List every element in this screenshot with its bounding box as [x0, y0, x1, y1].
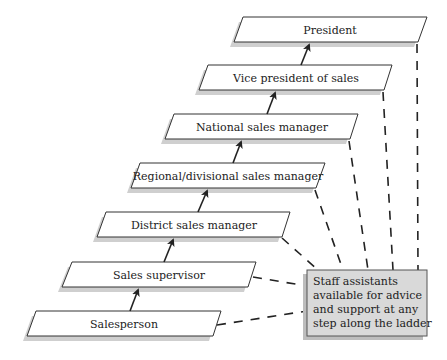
arrow-up-icon: [233, 142, 241, 163]
level-label: Salesperson: [90, 318, 158, 331]
connector-supervisor: [253, 277, 307, 286]
arrow-up-icon: [164, 240, 173, 262]
connector-national: [349, 141, 368, 270]
staff-text-line: Staff assistants: [313, 275, 398, 288]
level-box-vice-president: Vice president of sales: [195, 65, 392, 95]
level-box-district-sales-manager: District sales manager: [93, 212, 290, 242]
level-label: President: [303, 24, 357, 37]
arrow-up-icon: [301, 45, 309, 65]
arrow-up-icon: [267, 93, 275, 114]
arrow-up-icon: [130, 290, 138, 311]
connector-district: [282, 238, 318, 270]
level-box-president: President: [230, 17, 427, 47]
connector-vice-president: [383, 92, 393, 270]
staff-text-line: available for advice: [313, 289, 422, 302]
level-box-salesperson: Salesperson: [23, 311, 221, 341]
level-box-regional-sales-manager: Regional/divisional sales manager: [127, 163, 325, 193]
level-box-sales-supervisor: Sales supervisor: [58, 262, 256, 292]
connector-salesperson: [217, 311, 307, 325]
level-box-national-sales-manager: National sales manager: [161, 114, 358, 144]
staff-text-line: step along the ladder: [313, 317, 433, 330]
sales-career-ladder-diagram: Salesperson Sales supervisor District sa…: [0, 0, 447, 360]
level-label: National sales manager: [196, 121, 329, 134]
level-label: Sales supervisor: [113, 269, 206, 282]
level-label: Regional/divisional sales manager: [133, 170, 324, 183]
connector-regional: [315, 190, 343, 270]
level-label: Vice president of sales: [232, 72, 359, 85]
arrow-up-icon: [198, 191, 207, 212]
level-label: District sales manager: [131, 219, 258, 232]
staff-assistants-box: Staff assistants available for advice an…: [303, 270, 433, 340]
staff-text-line: and support at any: [313, 303, 419, 316]
connector-president: [417, 44, 418, 270]
